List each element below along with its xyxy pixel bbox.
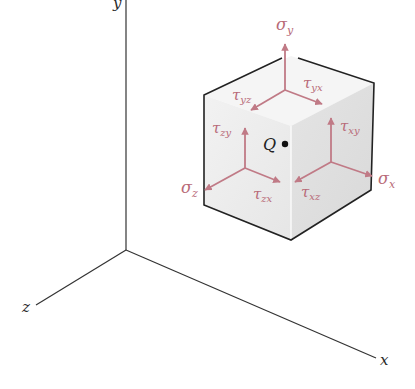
y-axis-label: y	[112, 0, 122, 12]
point-q-label: Q	[263, 135, 276, 154]
x-axis-label: x	[380, 351, 389, 369]
x-axis	[126, 250, 376, 358]
stress-cube	[204, 56, 374, 240]
z-axis	[36, 250, 126, 305]
z-axis-label: z	[21, 298, 30, 316]
sigma-x-label: σx	[378, 169, 396, 191]
stress-element-diagram: y z x Q σy τyx τyz τzy τxy σz	[0, 0, 415, 389]
sigma-y-label: σy	[276, 15, 294, 37]
sigma-z-label: σz	[181, 178, 198, 200]
point-q-dot	[282, 141, 288, 147]
